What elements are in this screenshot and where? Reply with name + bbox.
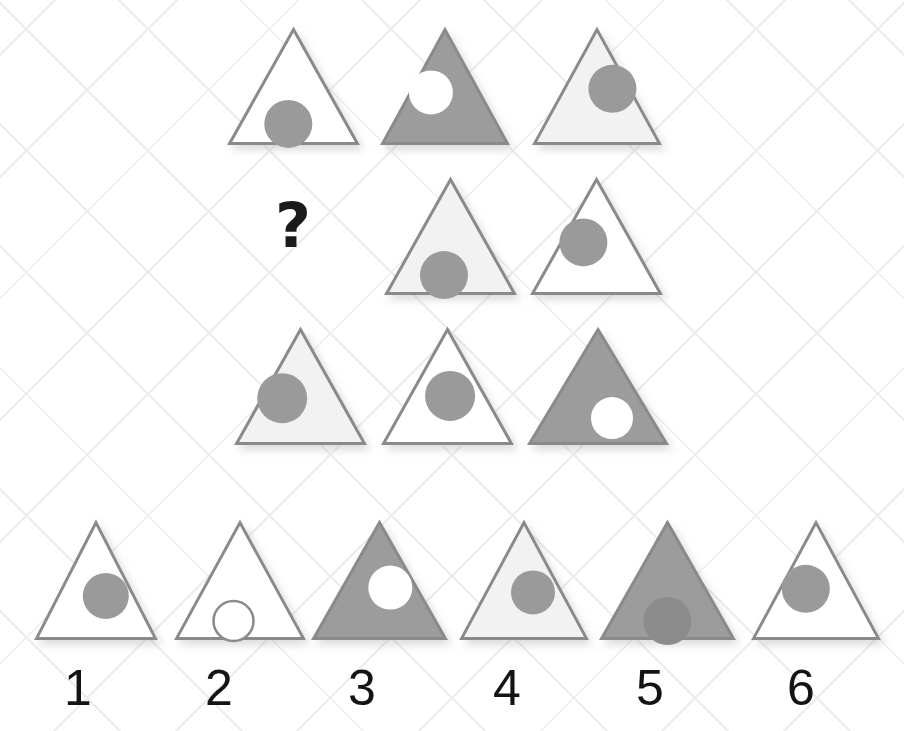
matrix-cell-r3c1-circle xyxy=(257,373,307,423)
matrix-cell-r1c3 xyxy=(533,28,661,145)
missing-cell-question-mark: ? xyxy=(275,195,311,257)
answer-option-6-circle xyxy=(782,565,830,613)
answer-option-5-label[interactable]: 5 xyxy=(628,663,672,713)
matrix-cell-r2c2-circle xyxy=(420,251,468,299)
matrix-cell-r1c1 xyxy=(228,28,359,145)
answer-option-2-label[interactable]: 2 xyxy=(197,663,241,713)
puzzle-canvas: ?123456 xyxy=(0,0,904,731)
matrix-cell-r3c2 xyxy=(382,328,513,445)
matrix-cell-r2c3-circle xyxy=(559,218,607,266)
matrix-cell-r1c3-circle xyxy=(588,65,636,113)
puzzle-layer: ?123456 xyxy=(0,0,904,731)
matrix-cell-r3c1 xyxy=(235,328,366,445)
answer-option-5-circle xyxy=(644,597,692,645)
answer-option-1-label[interactable]: 1 xyxy=(56,663,100,713)
answer-option-4-label[interactable]: 4 xyxy=(485,663,529,713)
matrix-cell-r3c3 xyxy=(528,328,668,445)
matrix-cell-r3c2-circle xyxy=(425,371,475,421)
answer-option-1-circle xyxy=(83,573,129,619)
answer-option-3-circle xyxy=(368,566,412,610)
matrix-cell-r3c3-circle xyxy=(591,397,633,439)
answer-option-4[interactable] xyxy=(460,521,588,640)
matrix-cell-r2c3 xyxy=(531,178,662,295)
matrix-cell-r1c2 xyxy=(381,28,509,145)
matrix-cell-r1c2-circle xyxy=(409,70,453,114)
answer-option-3-label[interactable]: 3 xyxy=(340,663,384,713)
answer-option-2-circle xyxy=(214,601,254,641)
answer-option-3[interactable] xyxy=(312,521,447,640)
matrix-cell-r1c1-circle xyxy=(264,100,312,148)
matrix-cell-r2c2 xyxy=(385,178,516,295)
answer-option-5[interactable] xyxy=(600,521,735,640)
answer-option-6-label[interactable]: 6 xyxy=(779,663,823,713)
answer-option-6[interactable] xyxy=(752,521,880,640)
answer-option-4-circle xyxy=(511,570,555,614)
answer-option-2[interactable] xyxy=(175,521,305,640)
answer-option-1[interactable] xyxy=(35,521,157,640)
